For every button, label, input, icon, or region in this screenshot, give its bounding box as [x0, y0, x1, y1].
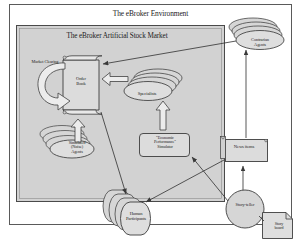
diagram-graphics: [0, 0, 301, 246]
econ-simulator-node[interactable]: [140, 134, 190, 157]
diagram-canvas: The eBroker Environment The eBroker Arti…: [0, 0, 301, 246]
news-items-node[interactable]: [221, 136, 268, 161]
story-board-node[interactable]: [263, 213, 293, 239]
story-teller-node[interactable]: [226, 190, 264, 228]
order-book-node[interactable]: [63, 56, 102, 114]
